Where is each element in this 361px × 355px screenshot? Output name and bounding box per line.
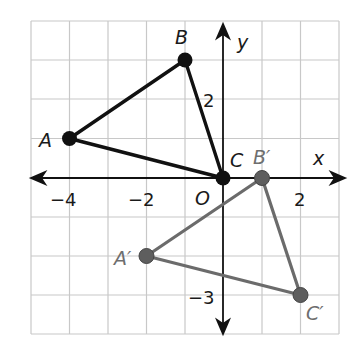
vertex-c bbox=[216, 171, 231, 186]
x-axis-label: x bbox=[312, 147, 325, 169]
label-c-prime: C′ bbox=[306, 302, 324, 324]
vertex-b-prime bbox=[255, 171, 270, 186]
tick-x-neg2: −2 bbox=[128, 189, 155, 210]
vertex-c-prime bbox=[293, 288, 308, 303]
origin-label: O bbox=[195, 187, 210, 209]
tick-x-2: 2 bbox=[294, 189, 305, 210]
tick-y-2: 2 bbox=[203, 90, 214, 111]
coordinate-plane: y x O −4 −2 2 2 −3 A′ B′ C′ A B C bbox=[0, 0, 361, 355]
tick-y-neg3: −3 bbox=[188, 287, 215, 308]
y-axis-label: y bbox=[236, 31, 249, 53]
label-b: B bbox=[175, 26, 188, 48]
tick-x-neg4: −4 bbox=[50, 189, 77, 210]
vertex-a-prime bbox=[139, 249, 154, 264]
label-c: C bbox=[230, 149, 244, 171]
tick-labels: −4 −2 2 2 −3 bbox=[50, 90, 305, 308]
vertex-b bbox=[178, 53, 193, 68]
label-a: A bbox=[37, 129, 52, 151]
vertex-a bbox=[62, 131, 77, 146]
label-a-prime: A′ bbox=[112, 247, 132, 269]
label-b-prime: B′ bbox=[253, 146, 271, 168]
